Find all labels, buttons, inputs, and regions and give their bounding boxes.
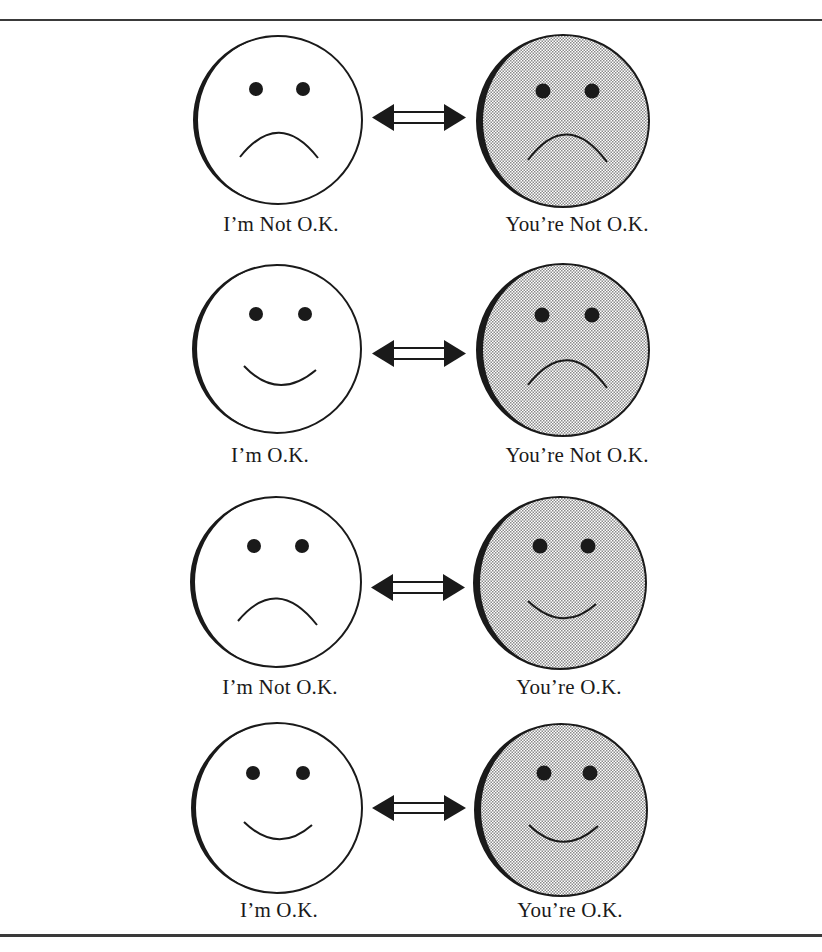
left-label-row-3: I’m Not O.K. (222, 675, 338, 700)
double-arrow-icon (372, 795, 466, 821)
left-label-row-1: I’m Not O.K. (223, 212, 339, 237)
left-label-row-2: I’m O.K. (231, 443, 309, 468)
left-face-sad-icon (194, 36, 362, 204)
double-arrow-icon (371, 574, 465, 601)
right-face-sad-icon (477, 264, 649, 436)
row-1 (194, 35, 649, 207)
row-4 (192, 723, 647, 896)
right-face-sad-icon (477, 35, 649, 207)
left-face-sad-icon (191, 497, 361, 667)
row-2 (193, 264, 649, 436)
right-label-row-1: You’re Not O.K. (505, 212, 648, 237)
left-face-happy-icon (193, 265, 361, 433)
right-label-row-4: You’re O.K. (517, 898, 623, 923)
double-arrow-icon (372, 340, 466, 367)
double-arrow-icon (372, 104, 466, 131)
right-face-happy-icon (474, 497, 646, 669)
left-face-happy-icon (192, 723, 362, 893)
right-face-happy-icon (475, 724, 647, 896)
transactional-analysis-diagram (0, 0, 822, 952)
row-3 (191, 497, 646, 669)
right-label-row-2: You’re Not O.K. (505, 443, 648, 468)
left-label-row-4: I’m O.K. (240, 898, 318, 923)
right-label-row-3: You’re O.K. (516, 675, 622, 700)
